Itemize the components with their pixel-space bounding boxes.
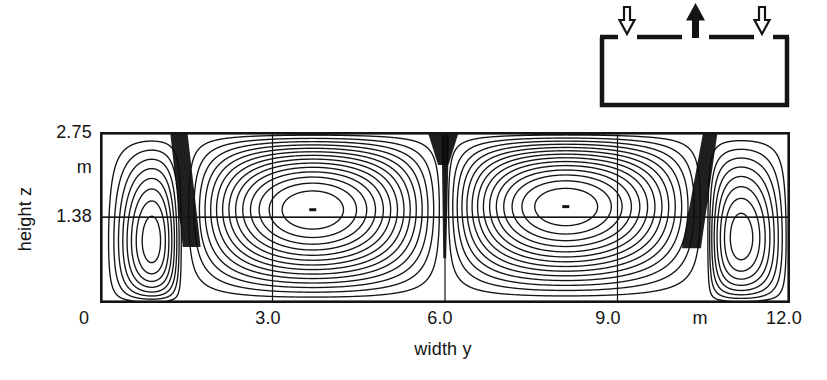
x-tick-label-3: 3.0 bbox=[255, 309, 281, 327]
y-axis-unit-label: m bbox=[34, 158, 92, 176]
room-outline bbox=[602, 37, 787, 105]
supply-inlet-left-arrow-icon bbox=[620, 7, 635, 34]
y-tick-label-mid: 1.38 bbox=[34, 207, 92, 225]
exhaust-outlet-arrow-icon bbox=[686, 3, 705, 38]
x-tick-label-12: 12.0 bbox=[766, 309, 802, 327]
y-tick-label-top: 2.75 bbox=[34, 123, 92, 141]
streamline-contour-plot bbox=[100, 132, 790, 303]
x-tick-label-6: 6.0 bbox=[427, 309, 453, 327]
x-axis-title: width y bbox=[414, 340, 471, 358]
room-schematic bbox=[596, 0, 796, 118]
x-axis-unit-label: m bbox=[692, 309, 707, 327]
x-tick-label-9: 9.0 bbox=[595, 309, 621, 327]
y-axis-title: height z bbox=[16, 187, 34, 252]
x-tick-label-0: 0 bbox=[79, 309, 89, 327]
figure: 2.75 m 1.38 height z 0 3.0 6.0 9.0 m 12.… bbox=[0, 0, 827, 380]
supply-inlet-right-arrow-icon bbox=[755, 7, 770, 34]
